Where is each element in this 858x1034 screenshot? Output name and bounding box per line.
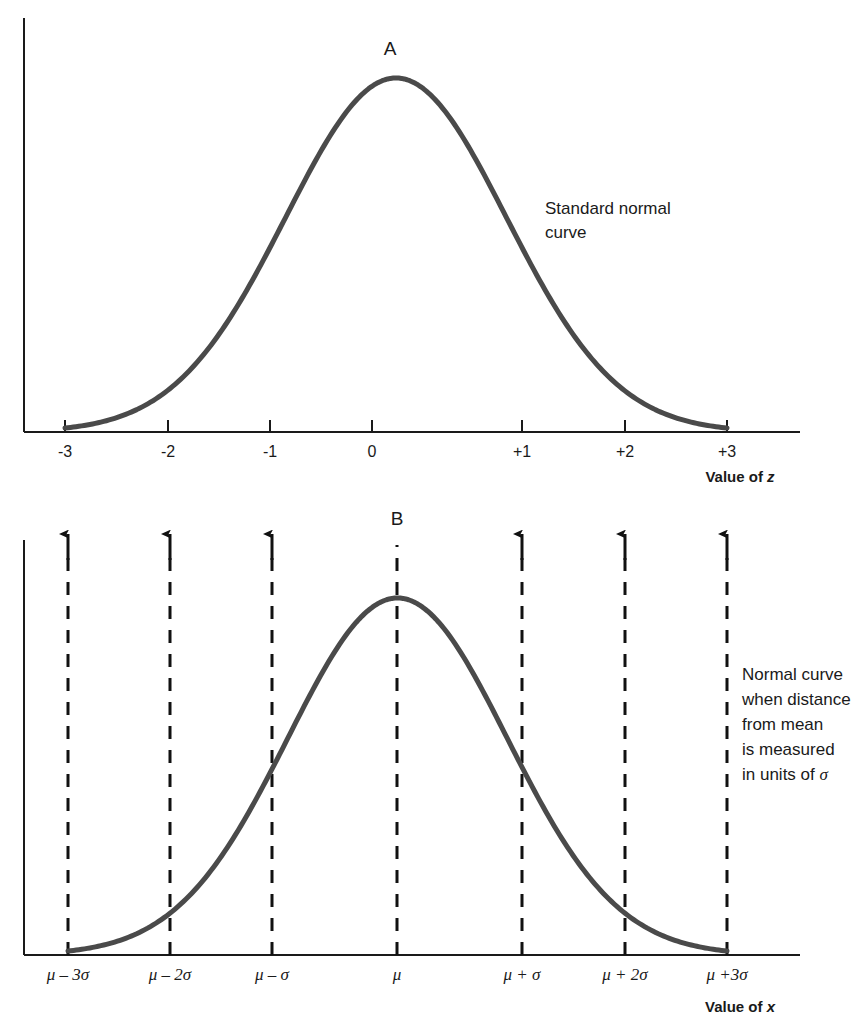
panel-b-annotation: Normal curve when distance from mean is … <box>741 665 851 784</box>
panel-b-tick-label: μ + 2σ <box>601 965 648 984</box>
panel-b-tick-label: μ – 2σ <box>148 965 192 984</box>
panel-b-annotation-line5-prefix: in units of <box>742 765 820 784</box>
normal-distribution-figure: A Standard normal curve -3 -2 -1 0 +1 +2… <box>0 0 858 1034</box>
panel-b-axis-title: Value of x <box>705 998 776 1015</box>
panel-a-tick-marks <box>65 420 727 432</box>
panel-b-tick-label: μ – 3σ <box>46 965 90 984</box>
panel-a-tick-labels: -3 -2 -1 0 +1 +2 +3 <box>58 443 736 460</box>
panel-a-tick-label: +2 <box>616 443 634 460</box>
panel-b-annotation-line5: in units of σ <box>742 765 829 784</box>
panel-a-tick-label: 0 <box>368 443 377 460</box>
panel-b-letter: B <box>391 508 404 529</box>
panel-b-annotation-line2: when distance <box>741 690 851 709</box>
panel-a: A Standard normal curve -3 -2 -1 0 +1 +2… <box>0 0 858 500</box>
panel-b: B Normal curve when distance from mean i… <box>0 500 858 1034</box>
panel-b-annotation-line3: from mean <box>742 715 823 734</box>
sigma-symbol: σ <box>820 765 829 784</box>
panel-a-tick-label: +3 <box>718 443 736 460</box>
panel-b-axis-title-variable: x <box>766 998 776 1015</box>
panel-a-axis-title-prefix: Value of <box>705 468 767 485</box>
panel-a-axis-title: Value of z <box>705 468 775 485</box>
panel-b-tick-label: μ <box>392 965 402 984</box>
panel-a-tick-label: -2 <box>161 443 175 460</box>
panel-b-axis-title-prefix: Value of <box>705 998 767 1015</box>
panel-a-annotation-line2: curve <box>545 223 587 242</box>
panel-a-tick-label: +1 <box>513 443 531 460</box>
panel-a-letter: A <box>384 38 397 59</box>
panel-a-tick-label: -1 <box>263 443 277 460</box>
panel-a-tick-label: -3 <box>58 443 72 460</box>
panel-b-tick-labels: μ – 3σ μ – 2σ μ – σ μ μ + σ μ + 2σ μ +3σ <box>46 965 748 984</box>
panel-a-axis-title-variable: z <box>766 468 775 485</box>
panel-b-tick-label: μ + σ <box>503 965 542 984</box>
panel-b-tick-label: μ – σ <box>254 965 290 984</box>
panel-a-annotation-line1: Standard normal <box>545 199 671 218</box>
standard-normal-curve <box>65 78 727 428</box>
panel-b-tick-label: μ +3σ <box>705 965 748 984</box>
panel-b-annotation-line1: Normal curve <box>742 665 843 684</box>
panel-b-annotation-line4: is measured <box>742 740 835 759</box>
